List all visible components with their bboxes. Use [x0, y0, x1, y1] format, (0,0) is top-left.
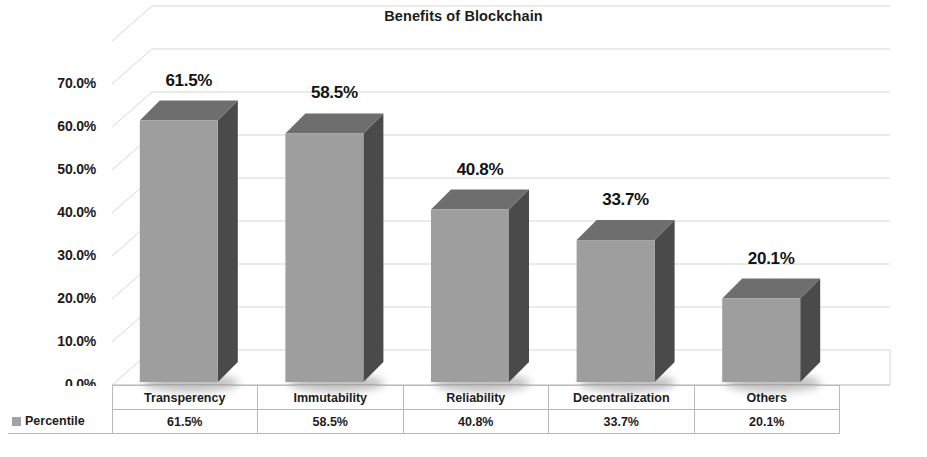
- y-axis-tick-label: 50.0%: [10, 161, 96, 177]
- bar-value-label: 58.5%: [279, 83, 389, 103]
- chart-container: Benefits of Blockchain 0: [0, 0, 927, 457]
- table-header-cell: Reliability: [403, 386, 549, 410]
- table-header-cell: Others: [694, 386, 840, 410]
- bar-3: [431, 190, 529, 382]
- bars-group: [140, 101, 820, 382]
- table-header-cell: Immutability: [258, 386, 404, 410]
- bar-side-face: [363, 113, 383, 382]
- bar-5: [722, 279, 820, 382]
- bar-value-label: 61.5%: [134, 71, 244, 91]
- bar-2: [285, 113, 383, 382]
- bar-front-face: [285, 133, 363, 382]
- y-axis-tick-label: 10.0%: [10, 333, 96, 349]
- bar-side-face: [655, 220, 675, 382]
- bar-value-label: 33.7%: [571, 190, 681, 210]
- table-header-cell: Decentralization: [549, 386, 695, 410]
- bar-front-face: [722, 299, 800, 382]
- table-row: Percentile 61.5%58.5%40.8%33.7%20.1%: [8, 410, 840, 434]
- legend-series-name: Percentile: [25, 414, 85, 428]
- table-value-cell: 58.5%: [258, 410, 404, 434]
- table-corner-cell: [8, 386, 112, 410]
- y-axis-tick-label: 40.0%: [10, 204, 96, 220]
- bar-side-face: [509, 190, 529, 382]
- table-value-cell: 33.7%: [549, 410, 695, 434]
- y-axis-tick-label: 60.0%: [10, 118, 96, 134]
- bar-1: [140, 101, 238, 382]
- gridline: [112, 6, 890, 41]
- y-axis-tick-label: 30.0%: [10, 247, 96, 263]
- table-header-row: TransperencyImmutabilityReliabilityDecen…: [8, 386, 840, 410]
- bar-front-face: [577, 240, 655, 382]
- bar-4: [577, 220, 675, 382]
- bar-front-face: [431, 210, 509, 382]
- bar-value-label: 20.1%: [716, 249, 826, 269]
- table-header-cell: Transperency: [112, 386, 258, 410]
- y-axis-tick-label: 20.0%: [10, 290, 96, 306]
- table-value-cell: 40.8%: [403, 410, 549, 434]
- bar-value-label: 40.8%: [425, 160, 535, 180]
- table-value-cell: 61.5%: [112, 410, 258, 434]
- data-table: TransperencyImmutabilityReliabilityDecen…: [8, 385, 840, 434]
- bar-side-face: [218, 101, 238, 382]
- table-value-cell: 20.1%: [694, 410, 840, 434]
- y-axis-tick-label: 70.0%: [10, 75, 96, 91]
- legend-swatch-icon: [12, 417, 21, 426]
- legend-entry: Percentile: [8, 410, 112, 434]
- bar-front-face: [140, 121, 218, 382]
